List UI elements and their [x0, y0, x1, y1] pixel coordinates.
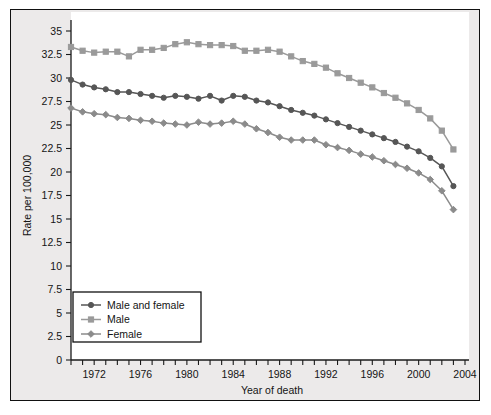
x-tick-label: 1984 — [222, 368, 246, 380]
y-tick-label: 5 — [56, 307, 62, 319]
legend-item-label: Male — [107, 313, 130, 325]
data-point — [173, 42, 178, 47]
data-point — [196, 42, 201, 47]
data-point — [68, 77, 73, 82]
data-point — [312, 113, 317, 118]
data-point — [335, 71, 340, 76]
data-point — [358, 80, 363, 85]
data-point — [300, 110, 305, 115]
data-point — [347, 124, 352, 129]
data-point — [439, 128, 444, 133]
x-tick-label: 1996 — [361, 368, 385, 380]
legend-item-label: Male and female — [107, 299, 185, 311]
data-point — [416, 107, 421, 112]
chart-legend: Male and femaleMaleFemale — [73, 292, 201, 342]
data-point — [80, 48, 85, 53]
data-point — [242, 94, 247, 99]
data-point — [115, 49, 120, 54]
x-tick-label: 1972 — [82, 368, 106, 380]
data-point — [161, 45, 166, 50]
y-tick-label: 30 — [50, 72, 62, 84]
data-point — [358, 128, 363, 133]
data-point — [184, 94, 189, 99]
data-point — [150, 47, 155, 52]
data-point — [150, 93, 155, 98]
data-point — [312, 61, 317, 66]
data-point — [80, 82, 85, 87]
data-point — [381, 90, 386, 95]
x-axis-title: Year of death — [241, 384, 303, 396]
x-tick-label: 1992 — [314, 368, 338, 380]
y-tick-label: 15 — [50, 213, 62, 225]
legend-item-label: Female — [107, 328, 142, 340]
x-tick-label: 1976 — [129, 368, 153, 380]
data-point — [219, 98, 224, 103]
data-point — [138, 47, 143, 52]
y-tick-label: 0 — [56, 354, 62, 366]
data-point — [265, 100, 270, 105]
data-point — [103, 49, 108, 54]
y-tick-label: 20 — [50, 166, 62, 178]
y-tick-label: 17.5 — [42, 189, 63, 201]
y-tick-label: 27.5 — [42, 95, 63, 107]
x-tick-label: 1988 — [268, 368, 292, 380]
data-point — [277, 104, 282, 109]
y-tick-label: 22.5 — [42, 142, 63, 154]
data-point — [265, 47, 270, 52]
legend-swatch-marker — [88, 317, 93, 322]
data-point — [370, 85, 375, 90]
data-point — [300, 58, 305, 63]
data-point — [393, 139, 398, 144]
data-point — [126, 90, 131, 95]
data-point — [254, 48, 259, 53]
data-point — [404, 144, 409, 149]
data-point — [231, 43, 236, 48]
data-point — [126, 54, 131, 59]
data-point — [451, 147, 456, 152]
plot-background-top — [71, 12, 469, 31]
chart-outer-frame: 02.557.51012.51517.52022.52527.53032.535… — [10, 9, 480, 401]
data-point — [242, 48, 247, 53]
y-tick-label: 7.5 — [47, 283, 62, 295]
y-tick-label: 2.5 — [47, 330, 62, 342]
data-point — [277, 49, 282, 54]
line-chart: 02.557.51012.51517.52022.52527.53032.535… — [11, 10, 479, 400]
y-axis-title: Rate per 100,000 — [21, 155, 33, 236]
data-point — [103, 87, 108, 92]
data-point — [335, 121, 340, 126]
data-point — [115, 90, 120, 95]
data-point — [207, 43, 212, 48]
data-point — [184, 40, 189, 45]
data-point — [347, 75, 352, 80]
data-point — [231, 93, 236, 98]
legend-swatch-marker — [88, 302, 93, 307]
y-tick-label: 35 — [50, 25, 62, 37]
data-point — [196, 96, 201, 101]
data-point — [219, 43, 224, 48]
y-tick-label: 25 — [50, 119, 62, 131]
data-point — [92, 85, 97, 90]
data-point — [161, 95, 166, 100]
data-point — [173, 93, 178, 98]
data-point — [381, 136, 386, 141]
data-point — [439, 164, 444, 169]
data-point — [451, 184, 456, 189]
data-point — [370, 132, 375, 137]
data-point — [68, 44, 73, 49]
y-tick-label: 32.5 — [42, 48, 63, 60]
data-point — [254, 98, 259, 103]
data-point — [323, 65, 328, 70]
data-point — [92, 50, 97, 55]
y-tick-label: 12.5 — [42, 236, 63, 248]
data-point — [138, 91, 143, 96]
data-point — [323, 117, 328, 122]
data-point — [428, 116, 433, 121]
data-point — [416, 149, 421, 154]
x-tick-label: 2000 — [407, 368, 431, 380]
data-point — [428, 155, 433, 160]
data-point — [207, 93, 212, 98]
x-tick-label: 2004 — [453, 368, 477, 380]
data-point — [404, 101, 409, 106]
data-point — [289, 107, 294, 112]
x-tick-label: 1980 — [175, 368, 199, 380]
